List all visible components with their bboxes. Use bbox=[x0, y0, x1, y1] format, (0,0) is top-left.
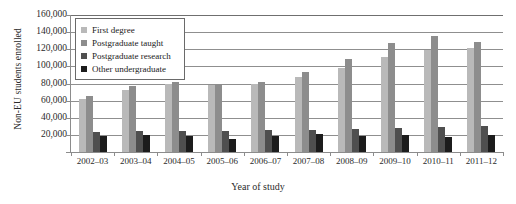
legend-label: Other undergraduate bbox=[92, 64, 166, 74]
legend-label: Postgraduate taught bbox=[92, 38, 163, 48]
bar bbox=[136, 131, 143, 152]
bar bbox=[402, 135, 409, 152]
bar bbox=[309, 130, 316, 152]
legend-item: First degree bbox=[81, 23, 179, 36]
chart-legend: First degreePostgraduate taughtPostgradu… bbox=[75, 18, 185, 80]
legend-item: Other undergraduate bbox=[81, 62, 179, 75]
bar bbox=[338, 68, 345, 152]
x-axis-tick-label: 2003–04 bbox=[114, 156, 157, 166]
legend-item: Postgraduate research bbox=[81, 49, 179, 62]
bar bbox=[265, 130, 272, 152]
x-axis-tick-mark bbox=[157, 152, 158, 156]
legend-label: First degree bbox=[92, 25, 135, 35]
bar bbox=[215, 84, 222, 153]
bar bbox=[165, 84, 172, 152]
bar bbox=[481, 126, 488, 152]
x-axis-tick-mark bbox=[373, 152, 374, 156]
x-axis-tick-mark bbox=[460, 152, 461, 156]
bar bbox=[445, 137, 452, 152]
x-axis-tick-label: 2007–08 bbox=[287, 156, 330, 166]
legend-swatch-icon bbox=[81, 66, 87, 72]
bar bbox=[345, 59, 352, 152]
x-axis-tick-labels: 2002–032003–042004–052005–062006–072007–… bbox=[71, 156, 503, 166]
bar bbox=[295, 77, 302, 152]
x-axis-tick-label: 2006–07 bbox=[244, 156, 287, 166]
legend-swatch-icon bbox=[81, 40, 87, 46]
y-axis-tick-label: 140,000 bbox=[7, 26, 67, 36]
bar-group bbox=[244, 15, 287, 152]
bar bbox=[179, 131, 186, 152]
bar bbox=[251, 84, 258, 153]
y-axis-tick-label: 100,000 bbox=[7, 60, 67, 70]
x-axis-tick-mark bbox=[114, 152, 115, 156]
bar bbox=[258, 82, 265, 152]
bar-group bbox=[201, 15, 244, 152]
y-axis-tick-label: 40,000 bbox=[7, 112, 67, 122]
chart-figure: Non-EU students enrolled Year of study 2… bbox=[0, 0, 516, 204]
bar bbox=[381, 57, 388, 152]
legend-swatch-icon bbox=[81, 53, 87, 59]
x-axis-tick-mark bbox=[417, 152, 418, 156]
legend-item: Postgraduate taught bbox=[81, 36, 179, 49]
bar bbox=[388, 43, 395, 152]
bar bbox=[79, 99, 86, 152]
bar bbox=[359, 136, 366, 152]
bar bbox=[93, 132, 100, 152]
bar bbox=[316, 134, 323, 152]
x-axis-tick-mark bbox=[201, 152, 202, 156]
x-axis-tick-mark bbox=[244, 152, 245, 156]
y-axis-tick-label: 160,000 bbox=[7, 9, 67, 19]
bar bbox=[272, 136, 279, 152]
bar-group bbox=[373, 15, 416, 152]
bar bbox=[302, 72, 309, 152]
bar-group bbox=[330, 15, 373, 152]
bar bbox=[172, 82, 179, 152]
bar bbox=[424, 50, 431, 152]
y-axis-tick-label: 20,000 bbox=[7, 129, 67, 139]
bar bbox=[438, 127, 445, 152]
x-axis-tick-label: 2010–11 bbox=[417, 156, 460, 166]
bar bbox=[129, 86, 136, 152]
bar bbox=[395, 128, 402, 152]
bar-group bbox=[417, 15, 460, 152]
legend-label: Postgraduate research bbox=[92, 51, 171, 61]
bar-group bbox=[287, 15, 330, 152]
x-axis-tick-mark bbox=[287, 152, 288, 156]
x-axis-tick-label: 2009–10 bbox=[373, 156, 416, 166]
y-axis-tick-label: 80,000 bbox=[7, 78, 67, 88]
bar bbox=[474, 42, 481, 152]
bar bbox=[100, 136, 107, 152]
bar bbox=[229, 139, 236, 152]
bar bbox=[352, 129, 359, 152]
x-axis-title: Year of study bbox=[0, 181, 516, 192]
bar bbox=[122, 90, 129, 153]
bar bbox=[488, 135, 495, 152]
bar bbox=[143, 135, 150, 152]
x-axis-tick-label: 2008–09 bbox=[330, 156, 373, 166]
bar bbox=[467, 48, 474, 152]
legend-swatch-icon bbox=[81, 27, 87, 33]
bar bbox=[186, 136, 193, 152]
y-axis-tick-label: 120,000 bbox=[7, 43, 67, 53]
x-axis-tick-mark bbox=[330, 152, 331, 156]
x-axis-tick-label: 2011–12 bbox=[460, 156, 503, 166]
bar bbox=[222, 131, 229, 152]
x-axis-tick-mark bbox=[71, 152, 72, 156]
bar bbox=[208, 85, 215, 152]
x-axis-tick-mark bbox=[503, 152, 504, 156]
x-axis-tick-label: 2002–03 bbox=[71, 156, 114, 166]
y-axis-tick-label: 60,000 bbox=[7, 95, 67, 105]
bar bbox=[431, 36, 438, 152]
bar bbox=[86, 96, 93, 152]
bar-group bbox=[460, 15, 503, 152]
x-axis-tick-label: 2005–06 bbox=[201, 156, 244, 166]
x-axis-tick-label: 2004–05 bbox=[157, 156, 200, 166]
